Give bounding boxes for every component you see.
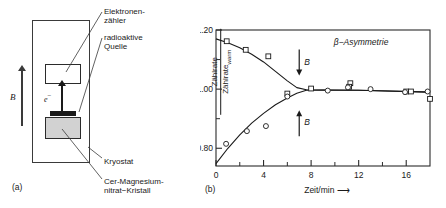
data-point-circle	[368, 87, 373, 92]
annotation-line: zähler	[104, 16, 145, 25]
panel-b-caption: (b)	[205, 184, 215, 194]
annotation-radioactive-source: radioaktive Quelle	[104, 33, 143, 52]
magnetic-field-label: B	[10, 92, 16, 102]
leader-lines	[0, 0, 200, 208]
electron-label: e−	[44, 92, 52, 104]
x-tick-label: 16	[401, 170, 411, 180]
magnetic-field-arrow-icon	[21, 70, 23, 126]
electron-path-arrow-icon	[61, 85, 63, 112]
x-tick-label: 4	[261, 170, 266, 180]
beta-arrow-up-label: B	[304, 117, 310, 127]
data-point-square	[243, 47, 248, 52]
data-point-circle	[263, 124, 268, 129]
annotation-line: Kryostat	[104, 157, 133, 166]
y-tick-label: 1.00	[200, 84, 213, 94]
y-tick-label: 1.20	[200, 25, 213, 35]
data-point-square	[409, 89, 414, 94]
chart-canvas: 0.801.001.200481216Zeit/min ⟶β−Asymmetri…	[200, 0, 446, 208]
annotation-electron-counter: Elektronen- zähler	[104, 7, 145, 26]
x-tick-label: 0	[214, 170, 219, 180]
data-point-circle	[244, 129, 249, 134]
panel-a-apparatus-diagram: e− B Elektronen- zähler radioaktive Quel…	[0, 0, 200, 208]
data-point-square	[224, 39, 229, 44]
figure-root: e− B Elektronen- zähler radioaktive Quel…	[0, 0, 446, 208]
annotation-line: Cer-Magnesium-	[104, 177, 164, 186]
data-point-circle	[224, 141, 229, 146]
annotation-line: Quelle	[104, 42, 143, 51]
y-tick-label: 0.80	[200, 143, 213, 153]
chart-title: β−Asymmetrie	[333, 37, 389, 47]
electron-charge-superscript: −	[48, 92, 52, 100]
annotation-crystal: Cer-Magnesium- nitrat−Kristall	[104, 177, 164, 196]
annotation-line: radioaktive	[104, 33, 143, 42]
annotation-line: nitrat−Kristall	[104, 186, 164, 195]
crystal-source-layer	[50, 111, 76, 116]
panel-a-caption: (a)	[12, 182, 22, 192]
data-point-square	[428, 96, 433, 101]
beta-arrow-up-head	[296, 110, 302, 116]
data-point-circle	[403, 90, 408, 95]
upper-fit	[216, 39, 430, 92]
data-point-circle	[345, 85, 350, 90]
data-point-square	[266, 54, 271, 59]
x-tick-label: 8	[309, 170, 314, 180]
lower-fit	[216, 90, 430, 164]
beta-arrow-down-label: B	[304, 57, 310, 67]
data-point-circle	[285, 94, 290, 99]
panel-b-chart: Zählrate Zählratewarm 0.801.001.20048121…	[200, 0, 446, 208]
cer-magnesium-nitrat-crystal-box	[45, 117, 81, 139]
x-tick-label: 12	[354, 170, 364, 180]
x-axis-label: Zeit/min ⟶	[304, 185, 350, 195]
leader-cryostat	[88, 147, 102, 158]
annotation-line: Elektronen-	[104, 7, 145, 16]
data-point-circle	[325, 88, 330, 93]
annotation-cryostat: Kryostat	[104, 157, 133, 166]
data-point-circle	[425, 89, 430, 94]
data-point-square	[309, 86, 314, 91]
beta-arrow-down-head	[296, 70, 302, 76]
